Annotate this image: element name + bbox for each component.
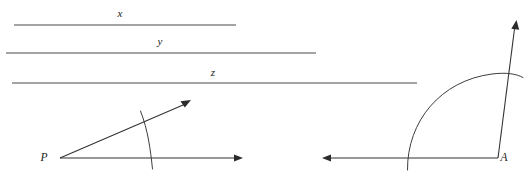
geometry-figure: x y z P A — [0, 0, 532, 176]
angle-a-group: A — [322, 20, 523, 170]
line-x-label: x — [117, 7, 123, 19]
line-y-label: y — [157, 35, 163, 47]
angle-p-horizontal-arrowhead — [234, 155, 243, 162]
angle-p-arc — [141, 111, 153, 169]
angle-a-vertex-label: A — [499, 151, 508, 163]
figure-canvas: x y z P A — [0, 0, 532, 176]
angle-a-slanted-ray — [498, 25, 515, 158]
angle-p-vertex-label: P — [39, 151, 47, 163]
angle-p-slanted-arrowhead — [181, 100, 192, 108]
angle-p-group: P — [39, 100, 243, 169]
angle-p-slanted-ray — [60, 104, 187, 159]
angle-a-horizontal-arrowhead — [322, 155, 331, 162]
line-z-label: z — [210, 66, 216, 78]
angle-a-slanted-arrowhead — [511, 20, 519, 30]
